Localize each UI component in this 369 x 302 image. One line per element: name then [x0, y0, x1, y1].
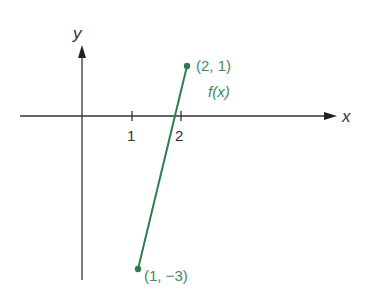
function-graph: y x 1 2 (2, 1) f(x) (1, −3): [0, 0, 369, 302]
y-axis-arrow-icon: [78, 45, 86, 58]
x-axis-arrow-icon: [324, 112, 337, 120]
x-tick-label-1: 1: [127, 127, 135, 144]
function-label: f(x): [208, 83, 230, 100]
x-tick-label-2: 2: [175, 127, 183, 144]
x-axis-label: x: [341, 107, 351, 126]
point-top: [184, 63, 190, 69]
y-axis-label: y: [72, 24, 83, 43]
graph-svg: y x 1 2 (2, 1) f(x) (1, −3): [0, 0, 369, 302]
function-line: [138, 66, 187, 269]
point-top-label: (2, 1): [196, 57, 231, 74]
point-bottom: [135, 266, 141, 272]
point-bottom-label: (1, −3): [144, 267, 188, 284]
